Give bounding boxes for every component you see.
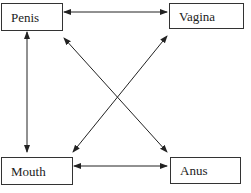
- node-label: Mouth: [11, 165, 46, 178]
- node-anus: Anus: [170, 157, 241, 184]
- node-label: Vagina: [179, 10, 215, 23]
- node-label: Anus: [180, 164, 207, 177]
- arrow-vagina-mouth: [73, 36, 167, 152]
- node-label: Penis: [11, 11, 39, 24]
- node-mouth: Mouth: [1, 157, 73, 185]
- node-vagina: Vagina: [169, 3, 244, 29]
- node-penis: Penis: [1, 3, 63, 31]
